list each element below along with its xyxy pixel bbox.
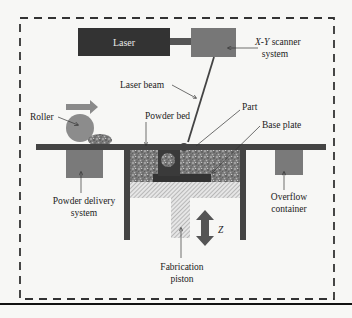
laser-beam: [188, 57, 214, 142]
z-axis-arrow: [196, 210, 214, 246]
z-axis-label: Z: [218, 225, 224, 235]
powder-bed-label: Powder bed: [145, 111, 190, 121]
roller-label: Roller: [30, 112, 55, 122]
scanner-label: X-Y scanner: [254, 37, 301, 47]
base-plate-label: Base plate: [262, 120, 301, 130]
powder-delivery-label: Powder delivery: [53, 196, 116, 206]
laser-unit: Laser: [78, 28, 192, 56]
part-sintered-zone: [161, 153, 175, 167]
fabrication-piston: [171, 198, 190, 238]
laser-beam-label: Laser beam: [120, 80, 165, 90]
part-label: Part: [242, 102, 258, 112]
powder-delivery-container: [66, 150, 103, 178]
powder-delivery-label-line2: system: [71, 208, 98, 218]
melt-spot: [180, 143, 188, 151]
roller-direction-arrow: [66, 100, 98, 114]
overflow-label-line2: container: [271, 204, 307, 214]
laser-beam-pointer: [172, 85, 196, 98]
laser-label: Laser: [113, 37, 136, 48]
xy-scanner: [191, 28, 236, 57]
part-pointer: [196, 110, 240, 146]
overflow-label: Overflow: [271, 192, 308, 202]
overflow-container: [275, 150, 303, 175]
scanner-label-line2: system: [262, 49, 289, 59]
fabrication-piston-label: Fabrication: [160, 262, 204, 272]
fabrication-piston-label-line2: piston: [170, 274, 193, 284]
